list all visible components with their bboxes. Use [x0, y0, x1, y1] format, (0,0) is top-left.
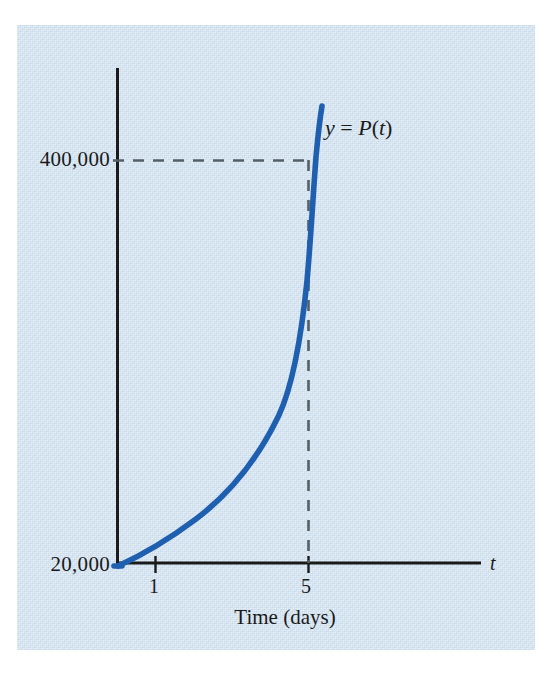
curve-label-paren-close: ) [385, 115, 392, 140]
x-tick-label-1: 1 [149, 576, 159, 596]
curve-annotation-label: y = P(t) [325, 117, 392, 139]
x-tick-label-5: 5 [301, 576, 311, 596]
curve-label-equals: = [340, 115, 352, 140]
y-tick-label-400000: 400,000 [40, 149, 110, 170]
figure-container: 400,000 20,000 1 5 t y = P(t) Time (days… [0, 0, 558, 675]
x-axis-title: Time (days) [6, 607, 558, 628]
data-curve-p-of-t [118, 106, 322, 566]
curve-label-function: P [358, 115, 371, 140]
y-tick-label-20000: 20,000 [50, 554, 110, 575]
x-axis-variable-symbol: t [490, 553, 496, 573]
curve-label-y: y [325, 115, 335, 140]
curve-label-paren-open: ( [372, 115, 379, 140]
